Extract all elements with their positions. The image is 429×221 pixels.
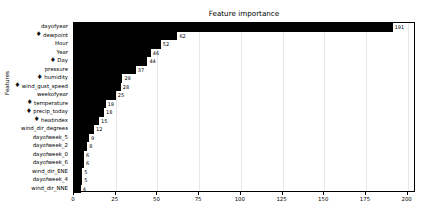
bar [74, 108, 104, 117]
x-tick-label: 125 [276, 196, 286, 202]
x-tick-label: 50 [153, 196, 160, 202]
bar [74, 151, 84, 160]
x-tick-label: 25 [111, 196, 118, 202]
bar-value-label: 12 [96, 125, 102, 133]
x-tick-mark [365, 192, 366, 195]
y-tick-label: dayofweek_6 [33, 158, 68, 166]
bar-value-label: 15 [101, 117, 107, 125]
bar [74, 57, 147, 66]
thermometer-icon: ♦ [34, 115, 40, 123]
bar-value-label: 8 [89, 142, 92, 150]
x-tick-mark [240, 192, 241, 195]
y-tick-label: Day [57, 56, 68, 64]
y-tick-label: humidity [44, 73, 68, 81]
plot-area: 1916252464437292825191815129866554 [73, 22, 415, 192]
y-tick-label: dayofyear [41, 22, 68, 30]
bar-value-label: 6 [86, 151, 89, 159]
x-tick-label: 175 [360, 196, 370, 202]
bar [74, 159, 84, 168]
y-tick-label: wind_gust_speed [22, 82, 68, 90]
bar [74, 100, 106, 109]
y-tick-label: precip_today [33, 107, 68, 115]
bar-value-label: 5 [84, 176, 87, 184]
bar [74, 66, 136, 75]
bar-value-label: 18 [106, 108, 112, 116]
bar-value-label: 44 [149, 57, 155, 65]
bar-value-label: 62 [179, 32, 185, 40]
x-tick-mark [73, 192, 74, 195]
y-tick-label: dayofweek_0 [33, 150, 68, 158]
thermometer-icon: ♦ [36, 30, 42, 38]
y-tick-label: dewpoint [43, 31, 68, 39]
bar [74, 40, 161, 49]
y-tick-label: dayofweek_5 [33, 133, 68, 141]
bar-row: 44 [74, 57, 416, 66]
y-tick-label: heatindex [41, 116, 68, 124]
bar-row: 8 [74, 142, 416, 151]
bar [74, 74, 122, 83]
y-tick-label: weekofyear [37, 90, 68, 98]
x-tick-label: 150 [318, 196, 328, 202]
y-tick-label: wind_dir_ENE [32, 167, 68, 175]
thermometer-icon: ♦ [37, 73, 43, 81]
y-tick-label: wind_dir_NNE [31, 184, 68, 192]
x-tick-mark [198, 192, 199, 195]
x-tick-labels: 0255075100125150175200 [73, 192, 415, 212]
bar-value-label: 28 [123, 83, 129, 91]
bar-row: 5 [74, 168, 416, 177]
bar-row: 19 [74, 100, 416, 109]
bar-value-label: 6 [86, 159, 89, 167]
bar [74, 134, 89, 143]
x-tick-label: 75 [195, 196, 202, 202]
feature-importance-figure: Feature importance Features dayofyeardew… [0, 0, 429, 221]
thermometer-icon: ♦ [14, 81, 20, 89]
bar-value-label: 5 [84, 168, 87, 176]
bar [74, 91, 116, 100]
bar-row: 37 [74, 66, 416, 75]
x-tick-mark [282, 192, 283, 195]
bar-row: 28 [74, 83, 416, 92]
bar-value-label: 52 [163, 40, 169, 48]
y-tick-label: pressure [45, 65, 68, 73]
bar-row: 46 [74, 49, 416, 58]
y-tick-labels: dayofyeardewpoint♦HourYearDay♦pressurehu… [0, 22, 71, 192]
y-tick-label: wind_dir_degrees [21, 124, 68, 132]
bar-value-label: 25 [118, 91, 124, 99]
bar-value-label: 191 [395, 23, 405, 31]
bar-row: 6 [74, 151, 416, 160]
x-tick-label: 100 [235, 196, 245, 202]
bar-value-label: 37 [138, 66, 144, 74]
bar-value-label: 19 [108, 100, 114, 108]
bar-row: 5 [74, 176, 416, 185]
y-tick-label: Year [57, 48, 68, 56]
bar-row: 62 [74, 32, 416, 41]
y-tick-label: dayofweek_4 [33, 175, 68, 183]
bar [74, 32, 177, 41]
y-tick-label: temperature [34, 99, 68, 107]
x-tick-label: 200 [402, 196, 412, 202]
bar [74, 23, 393, 32]
bar-row: 29 [74, 74, 416, 83]
bar-row: 191 [74, 23, 416, 32]
x-tick-label: 0 [71, 196, 74, 202]
x-tick-mark [115, 192, 116, 195]
bar-row: 25 [74, 91, 416, 100]
bar [74, 142, 87, 151]
bar-row: 18 [74, 108, 416, 117]
bar-row: 12 [74, 125, 416, 134]
bar-value-label: 29 [124, 74, 130, 82]
bar [74, 176, 82, 185]
bar [74, 83, 121, 92]
bar-value-label: 9 [91, 134, 94, 142]
bar [74, 168, 82, 177]
x-tick-mark [407, 192, 408, 195]
bar-series: 1916252464437292825191815129866554 [74, 23, 414, 191]
bar [74, 49, 151, 58]
chart-title: Feature importance [73, 9, 415, 18]
x-tick-mark [323, 192, 324, 195]
thermometer-icon: ♦ [50, 56, 56, 64]
bar-value-label: 46 [153, 49, 159, 57]
bar [74, 117, 99, 126]
y-tick-label: Hour [55, 39, 68, 47]
bar-row: 15 [74, 117, 416, 126]
